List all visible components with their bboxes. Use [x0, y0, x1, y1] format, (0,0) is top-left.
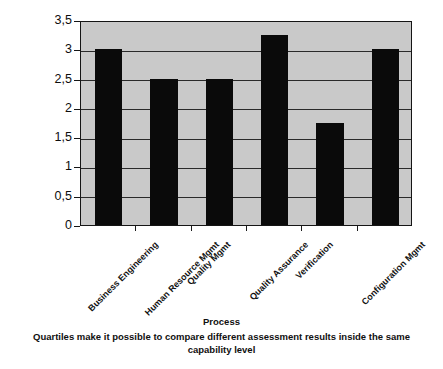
- x-axis-title: Process: [0, 316, 443, 327]
- y-axis-tick-label: 2: [32, 102, 72, 114]
- gridline: [81, 168, 411, 169]
- gridline: [81, 139, 411, 140]
- bar-chart-figure: Capability level 00,511,522,533,5 Busine…: [0, 0, 443, 369]
- gridline: [81, 197, 411, 198]
- y-axis-tick-label: 1: [32, 160, 72, 172]
- bar: [261, 35, 289, 225]
- x-axis-tick-mark: [301, 226, 302, 231]
- bar: [95, 49, 123, 225]
- y-axis-tick-label: 2,5: [32, 73, 72, 85]
- y-axis-tick-mark: [74, 226, 80, 227]
- plot-inner: [81, 22, 411, 225]
- bar: [372, 49, 400, 225]
- figure-caption: Quartiles make it possible to compare di…: [14, 330, 429, 356]
- x-axis-tick-mark: [357, 226, 358, 231]
- y-axis-tick-label: 1,5: [32, 131, 72, 143]
- x-axis-tick-mark: [191, 226, 192, 231]
- y-axis-tick-label: 0,5: [32, 190, 72, 202]
- x-axis-tick-mark: [246, 226, 247, 231]
- x-axis-tick-mark: [135, 226, 136, 231]
- plot-area: [80, 21, 412, 226]
- bar: [316, 123, 344, 226]
- x-axis-category-label: Configuration Mgmt: [360, 239, 428, 307]
- caption-line-2: capability level: [14, 343, 429, 356]
- gridline: [81, 80, 411, 81]
- gridline: [81, 109, 411, 110]
- x-axis-category-label: Business Engineering: [86, 239, 160, 313]
- bar: [206, 79, 234, 225]
- bar: [150, 79, 178, 225]
- caption-line-1: Quartiles make it possible to compare di…: [14, 330, 429, 343]
- gridline: [81, 51, 411, 52]
- y-axis-tick-label: 0: [32, 219, 72, 231]
- y-axis-tick-label: 3: [32, 43, 72, 55]
- y-axis-tick-label: 3,5: [32, 14, 72, 26]
